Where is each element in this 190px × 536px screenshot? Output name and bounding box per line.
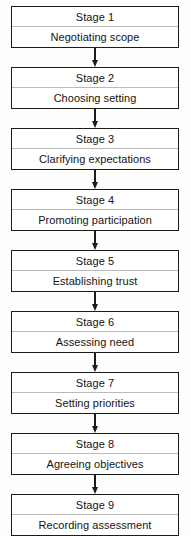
stage-box[interactable]: Stage 2 Choosing setting — [11, 67, 179, 109]
stage-title: Stage 3 — [12, 129, 178, 149]
stage-label: Agreeing objectives — [12, 454, 178, 474]
arrow-head — [92, 426, 98, 433]
stage-title: Stage 5 — [12, 251, 178, 271]
arrow-head — [92, 487, 98, 494]
stage-title: Stage 7 — [12, 373, 178, 393]
stage-title: Stage 8 — [12, 434, 178, 454]
stage-title: Stage 6 — [12, 312, 178, 332]
down-arrow-icon — [11, 414, 179, 433]
stage-box[interactable]: Stage 6 Assessing need — [11, 311, 179, 353]
stage-box[interactable]: Stage 4 Promoting participation — [11, 189, 179, 231]
stage-label: Negotiating scope — [12, 27, 178, 47]
down-arrow-icon — [11, 353, 179, 372]
stage-label: Promoting participation — [12, 210, 178, 230]
stage-box[interactable]: Stage 7 Setting priorities — [11, 372, 179, 414]
arrow-head — [92, 121, 98, 128]
arrow-head — [92, 243, 98, 250]
stage-box[interactable]: Stage 5 Establishing trust — [11, 250, 179, 292]
stage-box[interactable]: Stage 8 Agreeing objectives — [11, 433, 179, 475]
stage-group: Stage 4 Promoting participation — [11, 189, 179, 250]
arrow-head — [92, 365, 98, 372]
arrow-head — [92, 60, 98, 67]
down-arrow-icon — [11, 170, 179, 189]
down-arrow-icon — [11, 231, 179, 250]
down-arrow-icon — [11, 48, 179, 67]
stage-group: Stage 7 Setting priorities — [11, 372, 179, 433]
down-arrow-icon — [11, 475, 179, 494]
stage-group: Stage 9 Recording assessment — [11, 494, 179, 536]
stage-group: Stage 6 Assessing need — [11, 311, 179, 372]
stage-group: Stage 8 Agreeing objectives — [11, 433, 179, 494]
down-arrow-icon — [11, 109, 179, 128]
stage-title: Stage 2 — [12, 68, 178, 88]
stage-label: Establishing trust — [12, 271, 178, 291]
arrow-head — [92, 182, 98, 189]
stage-label: Clarifying expectations — [12, 149, 178, 169]
down-arrow-icon — [11, 292, 179, 311]
stage-title: Stage 4 — [12, 190, 178, 210]
stage-group: Stage 3 Clarifying expectations — [11, 128, 179, 189]
stage-box[interactable]: Stage 1 Negotiating scope — [11, 6, 179, 48]
stage-group: Stage 2 Choosing setting — [11, 67, 179, 128]
stage-label: Recording assessment — [12, 515, 178, 535]
stage-label: Choosing setting — [12, 88, 178, 108]
stage-title: Stage 1 — [12, 7, 178, 27]
stage-label: Setting priorities — [12, 393, 178, 413]
stage-group: Stage 1 Negotiating scope — [11, 6, 179, 67]
stage-title: Stage 9 — [12, 495, 178, 515]
stage-box[interactable]: Stage 9 Recording assessment — [11, 494, 179, 536]
arrow-head — [92, 304, 98, 311]
stage-box[interactable]: Stage 3 Clarifying expectations — [11, 128, 179, 170]
stage-group: Stage 5 Establishing trust — [11, 250, 179, 311]
stage-label: Assessing need — [12, 332, 178, 352]
